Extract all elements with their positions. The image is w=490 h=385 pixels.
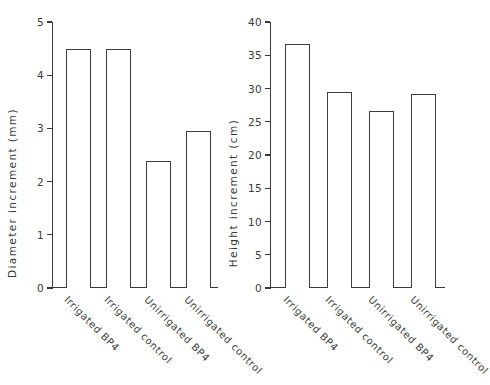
y-axis-tick-label: 2	[37, 176, 44, 188]
y-axis-tick-label: 35	[248, 49, 262, 61]
bar	[411, 94, 436, 288]
y-axis-tick-label: 25	[248, 116, 262, 128]
y-axis-tick	[47, 234, 52, 235]
chart-panel-diameter: Diameter increment (mm) 012345 Irrigated…	[0, 0, 225, 385]
y-axis-tick	[265, 55, 270, 56]
bar	[285, 44, 310, 288]
y-axis-tick	[265, 121, 270, 122]
y-axis-tick-label: 3	[37, 122, 44, 134]
y-axis-tick	[265, 254, 270, 255]
y-axis-tick	[47, 181, 52, 182]
x-axis-labels-left: Irrigated BP4Irrigated controlUnirrigate…	[0, 294, 225, 385]
y-axis-tick	[265, 287, 270, 288]
y-axis-tick-label: 15	[248, 182, 262, 194]
y-axis-tick-label: 30	[248, 83, 262, 95]
x-axis-category-label: Unirrigated control	[408, 294, 490, 376]
y-axis-tick-label: 40	[248, 16, 262, 28]
y-axis-tick-label: 5	[255, 249, 262, 261]
y-axis-tick-label: 4	[37, 69, 44, 81]
x-axis-category-label: Irrigated control	[102, 294, 174, 366]
bar	[327, 92, 352, 288]
x-axis-category-label: Unirrigated BP4	[142, 294, 212, 364]
y-axis-line-left	[52, 22, 53, 289]
y-axis-tick	[265, 154, 270, 155]
bar	[186, 131, 211, 288]
chart-panel-height: Height increment (cm) 0510152025303540 I…	[225, 0, 450, 385]
plot-area-diameter: 012345	[52, 22, 218, 288]
y-axis-tick	[265, 21, 270, 22]
y-axis-tick	[47, 128, 52, 129]
y-axis-label-left: Diameter increment (mm)	[6, 108, 18, 278]
y-axis-tick	[47, 75, 52, 76]
y-axis-tick	[47, 21, 52, 22]
y-axis-tick-label: 20	[248, 149, 262, 161]
y-axis-line-right	[270, 22, 271, 289]
y-axis-tick-label: 1	[37, 229, 44, 241]
y-axis-tick	[47, 287, 52, 288]
y-axis-label-right: Height increment (cm)	[227, 118, 239, 266]
y-axis-tick-label: 10	[248, 216, 262, 228]
y-axis-tick	[265, 188, 270, 189]
bar	[66, 49, 91, 288]
x-axis-labels-right: Irrigated BP4Irrigated controlUnirrigate…	[225, 294, 450, 385]
bar	[106, 49, 131, 288]
bar	[146, 161, 171, 288]
bar	[369, 111, 394, 288]
y-axis-tick	[265, 221, 270, 222]
plot-area-height: 0510152025303540	[270, 22, 445, 288]
y-axis-tick	[265, 88, 270, 89]
y-axis-tick-label: 5	[37, 16, 44, 28]
y-axis-tick-label: 0	[37, 282, 44, 294]
y-axis-tick-label: 0	[255, 282, 262, 294]
